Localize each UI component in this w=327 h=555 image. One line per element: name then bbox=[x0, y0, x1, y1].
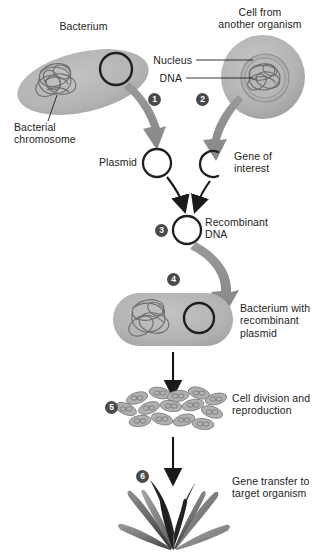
step-badge-6: 6 bbox=[136, 470, 149, 483]
plasmid-shape bbox=[143, 149, 171, 177]
diagram-canvas: Bacterium Cell from another organism Nuc… bbox=[0, 0, 327, 555]
label-cell-from-another-organism: Cell from another organism bbox=[197, 6, 323, 31]
bacteria-cluster-shape bbox=[114, 385, 228, 431]
step-badge-3: 3 bbox=[155, 224, 168, 237]
step-badge-2: 2 bbox=[196, 93, 209, 106]
plasmid-to-recombinant-arrow bbox=[167, 177, 183, 205]
label-bacterial-chromosome: Bacterial chromosome bbox=[14, 121, 104, 146]
step-badge-4: 4 bbox=[167, 273, 180, 286]
gene-to-recombinant-arrow bbox=[197, 181, 210, 205]
step-badge-5: 5 bbox=[105, 401, 118, 414]
label-gene-of-interest: Gene of interest bbox=[234, 150, 314, 175]
recombinant-dna-shape bbox=[173, 216, 201, 244]
label-cell-division-and-reproduction: Cell division and reproduction bbox=[232, 392, 327, 417]
label-gene-transfer-to-target-organism: Gene transfer to target organism bbox=[232, 475, 327, 500]
label-bacterium: Bacterium bbox=[36, 20, 131, 32]
label-dna: DNA bbox=[130, 72, 182, 84]
label-plasmid: Plasmid bbox=[82, 156, 137, 168]
label-nucleus: Nucleus bbox=[130, 54, 192, 66]
target-plant-shape bbox=[118, 480, 230, 550]
step-badge-1: 1 bbox=[148, 93, 161, 106]
step-1-arrow bbox=[124, 82, 166, 150]
label-bacterium-with-recombinant-plasmid: Bacterium with recombinant plasmid bbox=[240, 302, 325, 339]
label-recombinant-dna: Recombinant DNA bbox=[205, 216, 310, 241]
